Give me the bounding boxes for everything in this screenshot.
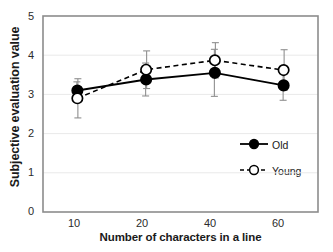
gridlines	[43, 55, 318, 173]
plot-frame	[43, 16, 318, 212]
legend-sample-old	[240, 140, 268, 149]
series-markers	[72, 55, 289, 103]
series-lines	[77, 60, 283, 98]
chart-svg	[0, 0, 333, 252]
chart-figure: Subjective evaluation value Number of ch…	[0, 0, 333, 252]
